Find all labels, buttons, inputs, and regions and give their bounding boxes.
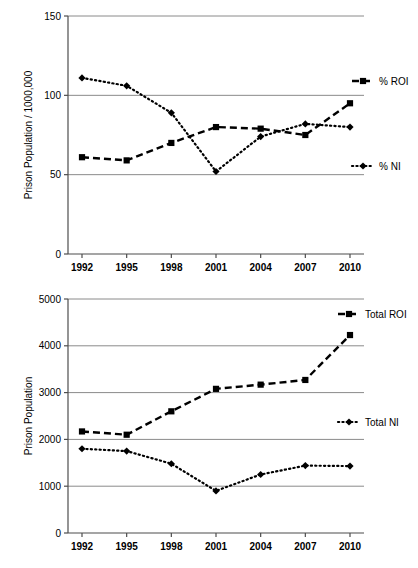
legend-item-total-roi: Total ROI [338, 309, 407, 320]
legend-marker-square [360, 78, 366, 84]
data-point-marker-diamond [78, 445, 85, 452]
legend-marker-diamond [359, 162, 366, 169]
legend-item-roi: % ROI [352, 76, 408, 87]
series-line-total-ni [82, 449, 350, 491]
legend-label: Total ROI [365, 309, 407, 320]
rate-chart-panel: 0501001501992199519982001200420072010Pri… [0, 0, 418, 285]
data-point-marker-square [79, 428, 85, 434]
data-point-marker-diamond [346, 123, 353, 130]
x-axis-tick-label: 2010 [339, 541, 362, 552]
legend-label: Total NI [365, 417, 399, 428]
series-line-roi [82, 103, 350, 160]
x-axis-tick-label: 2007 [294, 262, 317, 273]
figure-container: 0501001501992199519982001200420072010Pri… [0, 0, 418, 568]
x-axis-tick-label: 2007 [294, 541, 317, 552]
legend-marker-square [346, 311, 352, 317]
data-point-marker-square [302, 377, 308, 383]
y-axis-tick-label: 150 [44, 11, 61, 22]
data-point-marker-diamond [123, 448, 130, 455]
y-axis-tick-label: 100 [44, 90, 61, 101]
legend-marker-diamond [345, 418, 352, 425]
series-line-total-roi [82, 335, 350, 435]
y-axis-title: Prison Population [23, 377, 34, 455]
data-point-marker-diamond [212, 487, 219, 494]
total-chart-panel: 0100020003000400050001992199519982001200… [0, 285, 418, 568]
legend-label: % ROI [379, 76, 408, 87]
data-point-marker-square [168, 140, 174, 146]
y-axis-tick-label: 4000 [39, 340, 62, 351]
y-axis-tick-label: 2000 [39, 434, 62, 445]
x-axis-tick-label: 2004 [250, 541, 273, 552]
x-axis-tick-label: 1998 [160, 541, 183, 552]
rate-chart-svg: 0501001501992199519982001200420072010Pri… [0, 0, 418, 285]
data-point-marker-square [258, 126, 264, 132]
legend-item-total-ni: Total NI [338, 417, 399, 428]
x-axis-tick-label: 1995 [116, 541, 139, 552]
x-axis-tick-label: 2001 [205, 541, 228, 552]
y-axis-tick-label: 1000 [39, 481, 62, 492]
data-point-marker-square [168, 408, 174, 414]
y-axis-tick-label: 0 [55, 528, 61, 539]
data-point-marker-square [213, 124, 219, 130]
y-axis-tick-label: 5000 [39, 294, 62, 305]
y-axis-tick-label: 3000 [39, 387, 62, 398]
x-axis-tick-label: 1992 [71, 262, 94, 273]
data-point-marker-square [258, 382, 264, 388]
x-axis-tick-label: 2010 [339, 262, 362, 273]
data-point-marker-square [124, 157, 130, 163]
y-axis-tick-label: 0 [55, 249, 61, 260]
data-point-marker-diamond [302, 120, 309, 127]
x-axis-tick-label: 2001 [205, 262, 228, 273]
y-axis-title: Prison Population / 1000,000 [23, 70, 34, 199]
x-axis-tick-label: 1995 [116, 262, 139, 273]
data-point-marker-diamond [302, 462, 309, 469]
data-point-marker-diamond [168, 460, 175, 467]
total-chart-svg: 0100020003000400050001992199519982001200… [0, 285, 418, 568]
data-point-marker-square [79, 154, 85, 160]
y-axis-tick-label: 50 [50, 169, 62, 180]
x-axis-tick-label: 1992 [71, 541, 94, 552]
x-axis-tick-label: 1998 [160, 262, 183, 273]
data-point-marker-diamond [346, 462, 353, 469]
data-point-marker-diamond [78, 74, 85, 81]
data-point-marker-square [213, 386, 219, 392]
x-axis-tick-label: 2004 [250, 262, 273, 273]
data-point-marker-square [347, 100, 353, 106]
data-point-marker-square [124, 432, 130, 438]
legend-item-ni: % NI [352, 161, 401, 172]
legend-label: % NI [379, 161, 401, 172]
data-point-marker-square [347, 332, 353, 338]
data-point-marker-diamond [257, 471, 264, 478]
data-point-marker-square [302, 132, 308, 138]
